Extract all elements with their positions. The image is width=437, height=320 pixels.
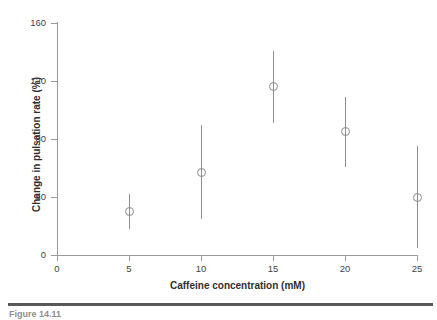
y-axis-title: Change in pulsation rate (%) — [31, 30, 42, 260]
x-axis-tick-label: 5 — [109, 264, 149, 274]
y-axis-tick-label: 0 — [6, 250, 46, 260]
figure-caption: Figure 14.11 — [9, 309, 61, 320]
plot-area — [57, 23, 417, 255]
y-axis-tick-label: 40 — [6, 192, 46, 202]
x-axis-tick-label: 15 — [253, 264, 293, 274]
y-axis-tick-label: 120 — [6, 76, 46, 86]
x-axis-tick — [273, 256, 274, 261]
x-axis-title: Caffeine concentration (mM) — [57, 280, 418, 291]
data-point-marker — [269, 82, 278, 91]
caption-divider — [8, 303, 433, 306]
x-axis-tick — [201, 256, 202, 261]
figure-container: Change in pulsation rate (%) Caffeine co… — [0, 0, 437, 320]
data-point-marker — [125, 207, 134, 216]
x-axis-tick — [57, 256, 58, 261]
x-axis-tick-label: 0 — [37, 264, 77, 274]
data-point-marker — [341, 127, 350, 136]
data-point-marker — [413, 193, 422, 202]
y-axis-tick-label: 160 — [6, 18, 46, 28]
x-axis-tick — [417, 256, 418, 261]
x-axis-tick — [345, 256, 346, 261]
x-axis-tick-label: 25 — [397, 264, 437, 274]
y-axis-tick-label: 80 — [6, 134, 46, 144]
data-point-marker — [197, 168, 206, 177]
x-axis-line — [57, 255, 418, 256]
x-axis-tick-label: 10 — [181, 264, 221, 274]
x-axis-tick-label: 20 — [325, 264, 365, 274]
x-axis-tick — [129, 256, 130, 261]
